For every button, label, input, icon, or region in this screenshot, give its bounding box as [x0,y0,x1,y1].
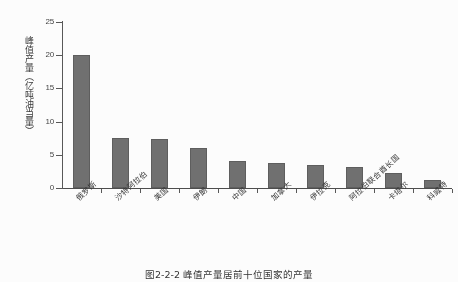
x-axis-tick [140,189,141,193]
x-axis-tick [296,189,297,193]
x-axis-tick [179,189,180,193]
figure-bar-chart: 峰值产量（亿吨油当量） 0510152025 俄罗斯沙特阿拉伯美国伊朗中国加拿大… [0,0,458,282]
x-axis-tick [452,189,453,193]
y-axis-tick-label-wrap: 10 [28,118,54,126]
bar [73,55,90,188]
y-axis-tick-label-wrap: 0 [28,184,54,192]
y-axis-tick-label: 25 [32,18,54,26]
y-axis-tick-label-wrap: 5 [28,151,54,159]
y-axis-tick-label: 20 [32,51,54,59]
x-axis-tick [257,189,258,193]
y-axis-tick-label: 15 [32,84,54,92]
x-axis-tick [374,189,375,193]
figure-caption: 图2-2-2 峰值产量居前十位国家的产量 [0,268,458,282]
x-axis-tick [335,189,336,193]
y-axis-tick-label: 0 [32,184,54,192]
y-axis-tick [56,188,63,189]
bar [229,161,246,188]
y-axis-tick-label-wrap: 25 [28,18,54,26]
y-axis-tick-label-wrap: 20 [28,51,54,59]
x-axis-tick [218,189,219,193]
bar [112,138,129,188]
y-axis-tick-label-wrap: 15 [28,84,54,92]
x-axis-tick [101,189,102,193]
bar [151,139,168,188]
x-axis-tick [413,189,414,193]
y-axis-tick-label: 5 [32,151,54,159]
y-axis-tick-label: 10 [32,118,54,126]
bar [190,148,207,188]
